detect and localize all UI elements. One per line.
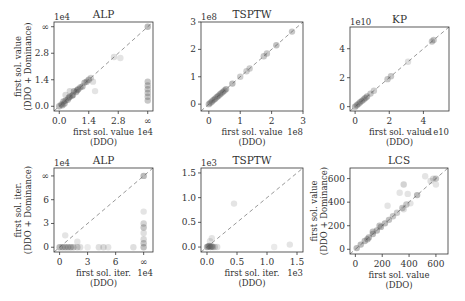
y-tick-label: 6 [43,195,49,205]
x-axis-label: (DDO) [238,137,265,147]
x-axis-label: first sol. iter. [225,268,280,278]
x-tick-label: 0 [353,259,359,269]
data-point [140,220,146,226]
data-point [140,230,146,236]
data-point [140,236,146,242]
x-axis-label: (DDO) [386,137,413,147]
data-point [430,37,436,43]
x-tick-label: 0 [352,116,358,126]
x-axis-label: (DDO) [90,137,117,147]
y-tick-label: ∞ [42,171,50,181]
y-tick-label: 0 [43,242,49,252]
y-tick-label: 3 [43,218,49,228]
panel-tsptw-value: 01230123TSPTW1e8first sol. value(DDO)1e8 [190,8,306,147]
data-point [246,65,252,71]
x-axis-label: first sol. value [369,270,430,280]
data-point [92,88,98,94]
y-tick-label: 400 [328,197,345,207]
panel-title: LCS [388,154,410,166]
data-point [371,88,377,94]
x-axis-label: (DDO) [238,278,265,288]
x-tick-label: 0.0 [200,257,215,267]
data-point [289,28,295,34]
y-axis-label: (DDO + Dominance) [23,22,33,110]
x-axis-label: first sol. value [222,127,283,137]
panel-title: TSPTW [232,154,271,166]
x-axis-label: first sol. value [369,127,430,137]
data-point [209,235,215,241]
data-point [140,173,146,179]
data-point [370,228,376,234]
panel-alp-value: 0.01.42.8∞0.01.42.8∞ALP1e4first sol. val… [13,8,153,147]
data-point [145,97,151,103]
data-point [271,244,277,250]
panel-kp-value: 024024KP1e10first sol. value(DDO)1e10 [339,13,449,147]
x-tick-label: ∞ [140,257,148,267]
data-point [237,74,243,80]
x-tick-label: 1 [237,116,243,126]
x-tick-label: 1.0 [260,257,275,267]
y-tick-label: 1.0 [182,193,197,203]
data-point [74,87,80,93]
panel-title: KP [392,13,407,25]
data-point [145,24,151,30]
data-point [77,244,83,250]
y-tick-label: 0 [339,244,345,254]
y-tick-label: 0.0 [182,242,197,252]
panel-title: TSPTW [232,8,271,20]
x-tick-label: 1.5 [290,257,305,267]
x-tick-label: ∞ [144,116,152,126]
y-tick-label: 0.5 [182,217,197,227]
x-tick-label: 2.8 [111,116,126,126]
x-tick-label: 4 [421,116,427,126]
y-tick-label: 0 [190,99,196,109]
x-tick-label: 2 [269,116,275,126]
data-point [430,175,436,181]
data-point [214,244,220,250]
data-point [273,42,279,48]
y-tick-label: 2 [190,44,196,54]
x-tick-label: 6 [113,257,119,267]
data-point [62,232,68,238]
y-offset-label: 1e10 [350,17,371,27]
y-tick-label: 0.0 [35,101,50,111]
x-tick-label: 0.5 [230,257,245,267]
y-tick-label: 2 [339,73,345,83]
x-tick-label: 1.4 [82,116,97,126]
x-offset-label: 1e3 [287,268,303,278]
y-offset-label: 1e4 [54,158,70,168]
panel-alp-iter: 036∞036∞ALP1e4first sol. iter.(DDO)1e4fi… [13,154,153,288]
data-point [384,202,390,208]
data-point [74,238,80,244]
x-tick-label: 2 [386,116,392,126]
data-point [364,236,370,242]
y-axis-label: first sol. iter. [13,183,23,238]
panel-lcs-value: 02004006000200400600LCSfirst sol. value(… [309,154,448,290]
data-point [414,192,420,198]
panel-tsptw-iter: 0.00.51.01.50.00.51.01.5TSPTW1e3first so… [182,154,305,288]
y-tick-label: 1 [190,72,196,82]
y-tick-label: 4 [339,44,345,54]
x-offset-label: 1e8 [287,127,303,137]
data-point [405,191,411,197]
x-offset-label: 1e4 [137,268,153,278]
figure: 0.01.42.8∞0.01.42.8∞ALP1e4first sol. val… [0,0,465,301]
x-tick-label: 600 [427,259,444,269]
data-point [376,223,382,229]
y-axis-label: first sol. value [309,181,319,242]
x-axis-label: first sol. value [73,127,134,137]
diagonal-line [54,168,153,252]
x-axis-label: (DDO) [90,278,117,288]
data-point [229,80,235,86]
data-point [105,244,111,250]
data-point [264,50,270,56]
x-tick-label: 0 [206,116,212,126]
data-point [61,100,67,106]
x-axis-label: first sol. iter. [76,268,131,278]
data-point [231,200,237,206]
y-axis-label: (DDO + Dominance) [23,166,33,254]
x-tick-label: 3 [300,116,306,126]
data-point [407,200,413,206]
x-tick-label: 3 [85,257,91,267]
data-point [400,206,406,212]
